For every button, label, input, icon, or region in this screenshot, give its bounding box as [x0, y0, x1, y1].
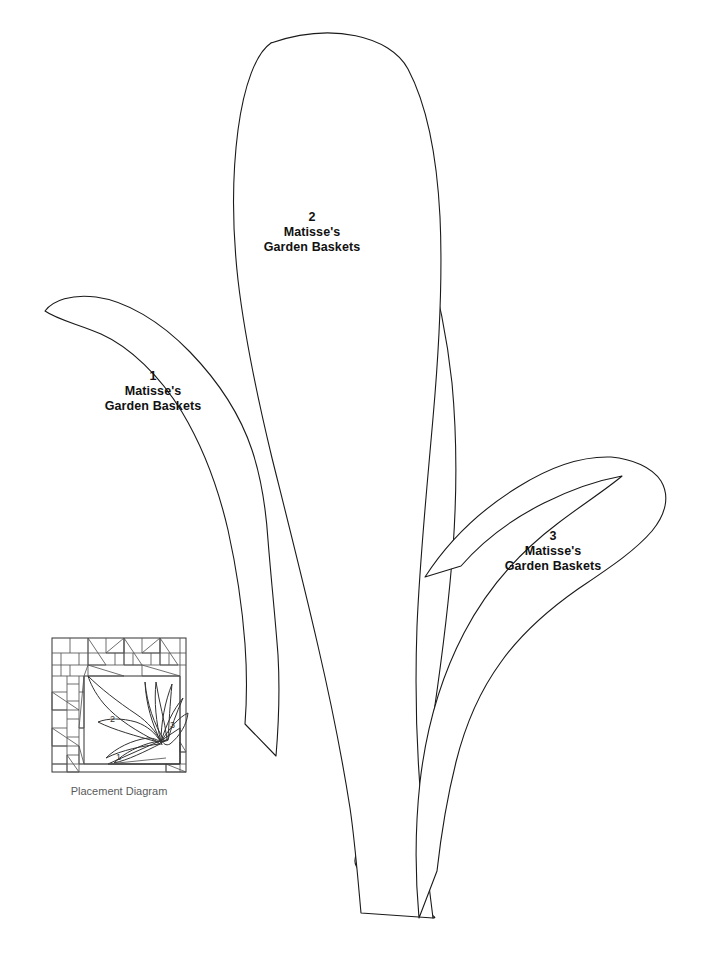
piece-2-name-line-1: Matisse's: [247, 225, 377, 240]
placement-diagram-artwork: 3 2 1: [46, 632, 192, 778]
piece-1-number: 1: [88, 369, 218, 384]
placement-diagram: 3 2 1: [46, 632, 192, 778]
piece-3-name-line-2: Garden Baskets: [488, 559, 618, 574]
pattern-template-sheet: 1 Matisse's Garden Baskets 2 Matisse's G…: [0, 0, 702, 953]
placement-marker-2: 2: [110, 714, 115, 724]
piece-3-name-line-1: Matisse's: [488, 544, 618, 559]
piece-2-number: 2: [247, 210, 377, 225]
piece-1-label: 1 Matisse's Garden Baskets: [88, 369, 218, 414]
piece-1-name-line-2: Garden Baskets: [88, 399, 218, 414]
placement-diagram-caption: Placement Diagram: [46, 785, 192, 797]
pattern-pieces-artwork: [0, 0, 702, 953]
piece-1-name-line-1: Matisse's: [88, 384, 218, 399]
piece-2-label: 2 Matisse's Garden Baskets: [247, 210, 377, 255]
placement-marker-3: 3: [170, 720, 175, 730]
piece-3-label: 3 Matisse's Garden Baskets: [488, 529, 618, 574]
piece-3-number: 3: [488, 529, 618, 544]
piece-2-name-line-2: Garden Baskets: [247, 240, 377, 255]
piece-2-outline-clean: [234, 33, 442, 918]
